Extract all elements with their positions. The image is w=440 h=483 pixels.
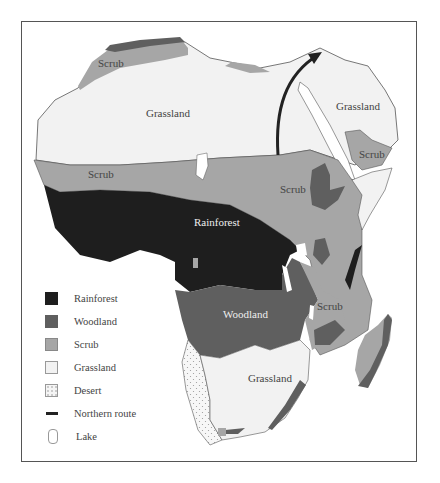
label-grassland-northeast: Grassland	[336, 100, 380, 112]
legend-item-northern-route: Northern route	[45, 402, 136, 425]
grassland-swatch-icon	[45, 361, 58, 374]
legend-label: Scrub	[74, 339, 99, 350]
region-scrub-cape	[218, 428, 226, 436]
label-scrub-horn: Scrub	[359, 148, 385, 160]
scrub-swatch-icon	[45, 338, 58, 351]
label-woodland: Woodland	[223, 308, 268, 320]
legend-label: Woodland	[74, 316, 117, 327]
legend-label: Desert	[74, 385, 101, 396]
legend-item-rainforest: Rainforest	[45, 287, 136, 310]
legend-item-desert: Desert	[45, 379, 136, 402]
label-rainforest: Rainforest	[194, 216, 240, 228]
label-grassland-north: Grassland	[146, 107, 190, 119]
map-legend: Rainforest Woodland Scrub Grassland Dese…	[45, 287, 136, 448]
rainforest-swatch-icon	[45, 292, 58, 305]
desert-swatch-icon	[45, 384, 58, 397]
lake-shape-icon	[48, 429, 58, 444]
legend-label: Northern route	[74, 408, 136, 419]
legend-item-grassland: Grassland	[45, 356, 136, 379]
legend-item-scrub: Scrub	[45, 333, 136, 356]
label-scrub-sahel: Scrub	[88, 168, 114, 180]
legend-label: Rainforest	[74, 293, 118, 304]
label-scrub-east: Scrub	[280, 183, 306, 195]
legend-label: Grassland	[74, 362, 116, 373]
legend-label: Lake	[76, 431, 97, 442]
woodland-swatch-icon	[45, 315, 58, 328]
label-scrub-north: Scrub	[98, 57, 124, 69]
label-grassland-south: Grassland	[248, 372, 292, 384]
label-scrub-southeast: Scrub	[317, 300, 343, 312]
route-line-icon	[46, 412, 58, 415]
legend-item-lake: Lake	[45, 425, 136, 448]
legend-item-woodland: Woodland	[45, 310, 136, 333]
region-scrub-gabon-patch	[193, 258, 198, 268]
